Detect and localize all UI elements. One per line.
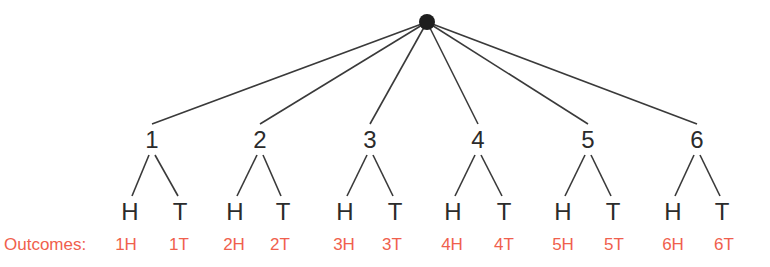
coin-h-label: H (444, 198, 461, 226)
coin-t-label: T (388, 198, 403, 226)
outcome-2T: 2T (270, 235, 290, 255)
coin-t-label: T (606, 198, 621, 226)
tree-lines (0, 0, 770, 267)
coin-branch-line-1T (155, 155, 178, 196)
outcome-1T: 1T (169, 235, 189, 255)
die-outcome-4: 4 (471, 126, 484, 154)
coin-h-label: H (664, 198, 681, 226)
outcome-2H: 2H (223, 235, 245, 255)
outcome-1H: 1H (115, 235, 137, 255)
outcomes-label: Outcomes: (4, 235, 86, 255)
coin-t-label: T (715, 198, 730, 226)
coin-t-label: T (276, 198, 291, 226)
outcome-5T: 5T (604, 235, 624, 255)
coin-branch-line-6H (675, 155, 694, 196)
coin-t-label: T (497, 198, 512, 226)
coin-branch-line-6T (700, 155, 720, 196)
coin-branch-line-4T (481, 155, 502, 196)
root-branch-line-3 (370, 22, 427, 124)
root-node-dot (419, 14, 435, 30)
outcome-6T: 6T (714, 235, 734, 255)
coin-h-label: H (336, 198, 353, 226)
coin-h-label: H (226, 198, 243, 226)
coin-h-label: H (554, 198, 571, 226)
die-outcome-5: 5 (581, 126, 594, 154)
outcome-5H: 5H (552, 235, 574, 255)
coin-branch-line-3H (347, 155, 367, 196)
coin-t-label: T (173, 198, 188, 226)
die-outcome-3: 3 (363, 126, 376, 154)
outcome-6H: 6H (662, 235, 684, 255)
outcome-3T: 3T (382, 235, 402, 255)
die-outcome-6: 6 (690, 126, 703, 154)
coin-branch-line-3T (373, 155, 393, 196)
outcome-4H: 4H (441, 235, 463, 255)
outcome-4T: 4T (494, 235, 514, 255)
root-branch-line-2 (260, 22, 427, 124)
coin-branch-line-5H (565, 155, 585, 196)
coin-branch-line-2H (237, 155, 257, 196)
coin-branch-line-2T (263, 155, 281, 196)
root-branch-line-1 (152, 22, 427, 124)
outcome-3H: 3H (333, 235, 355, 255)
die-outcome-2: 2 (253, 126, 266, 154)
coin-branch-line-4H (455, 155, 475, 196)
die-outcome-1: 1 (145, 126, 158, 154)
root-branch-line-6 (427, 22, 697, 124)
coin-branch-line-1H (132, 155, 149, 196)
coin-branch-line-5T (591, 155, 611, 196)
coin-h-label: H (121, 198, 138, 226)
